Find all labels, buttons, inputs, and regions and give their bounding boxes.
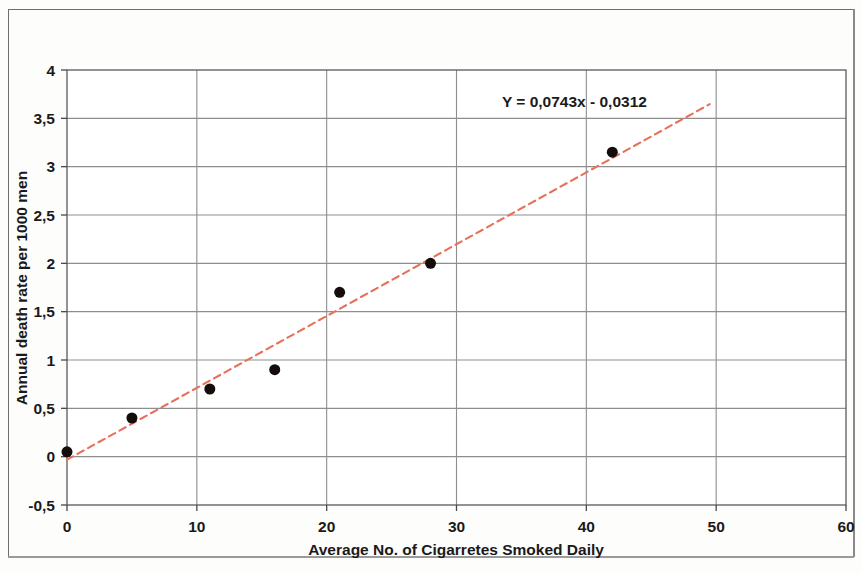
scatter-plot: -0,500,511,522,533,54 0102030405060 Y = … xyxy=(0,0,862,573)
y-tick-label: 1 xyxy=(46,352,55,369)
data-point xyxy=(269,364,280,375)
x-tick-label: 60 xyxy=(837,518,854,535)
x-tick-label: 0 xyxy=(63,518,72,535)
data-point xyxy=(334,287,345,298)
y-tick-label: 1,5 xyxy=(33,303,55,320)
y-tick-label: 3,5 xyxy=(33,110,55,127)
x-axis-title: Average No. of Cigarretes Smoked Daily xyxy=(308,541,604,558)
y-tick-label: 2,5 xyxy=(33,207,55,224)
x-tick-label: 10 xyxy=(188,518,205,535)
y-axis-ticks xyxy=(61,70,67,505)
y-axis-title: Annual death rate per 1000 men xyxy=(13,171,30,405)
y-tick-label: 0 xyxy=(46,448,55,465)
y-tick-label: -0,5 xyxy=(28,497,55,514)
y-tick-label: 3 xyxy=(46,158,55,175)
y-tick-label: 0,5 xyxy=(33,400,55,417)
x-tick-label: 30 xyxy=(448,518,465,535)
x-axis-ticks xyxy=(67,505,846,511)
trendline-equation-label: Y = 0,0743x - 0,0312 xyxy=(502,93,647,110)
x-tick-label: 40 xyxy=(578,518,595,535)
x-axis-tick-labels: 0102030405060 xyxy=(63,518,855,535)
x-tick-label: 20 xyxy=(318,518,335,535)
chart-figure: -0,500,511,522,533,54 0102030405060 Y = … xyxy=(0,0,862,573)
x-tick-label: 50 xyxy=(708,518,725,535)
data-point xyxy=(62,446,73,457)
data-point xyxy=(607,147,618,158)
data-point xyxy=(204,384,215,395)
y-tick-label: 4 xyxy=(46,62,55,79)
y-tick-label: 2 xyxy=(46,255,55,272)
y-axis-tick-labels: -0,500,511,522,533,54 xyxy=(28,62,55,514)
data-point xyxy=(425,258,436,269)
data-point xyxy=(126,413,137,424)
